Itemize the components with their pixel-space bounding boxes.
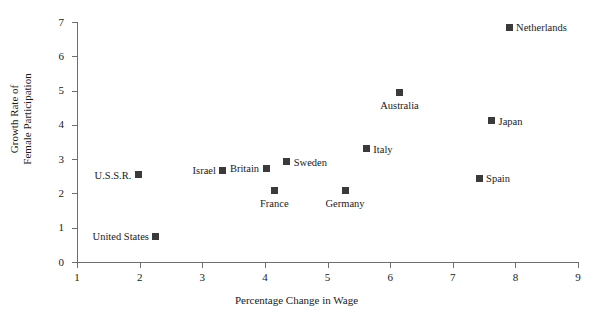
data-point-label: United States [93,231,149,242]
y-tick-label: 2 [42,188,64,199]
x-tick-label: 2 [129,272,151,283]
y-axis-title-line-2: Female Participation [21,34,34,204]
y-axis-title: Growth Rate of Female Participation [8,34,34,204]
x-tick-mark [515,263,516,268]
data-point[interactable] [263,165,270,172]
data-point[interactable] [476,175,483,182]
data-point[interactable] [488,117,495,124]
x-tick-label: 1 [66,272,88,283]
x-tick-mark [202,263,203,268]
x-tick-mark [77,263,78,268]
x-tick-mark [265,263,266,268]
plot-area [77,22,578,262]
x-axis-title: Percentage Change in Wage [0,294,593,306]
x-tick-mark [453,263,454,268]
data-point[interactable] [342,187,349,194]
x-tick-label: 9 [567,272,589,283]
data-point[interactable] [283,158,290,165]
x-tick-label: 7 [442,272,464,283]
y-tick-label: 4 [42,119,64,130]
data-point[interactable] [135,171,142,178]
data-point-label: Israel [193,165,216,176]
data-point[interactable] [363,145,370,152]
y-tick-label: 7 [42,17,64,28]
data-point-label: Spain [486,173,510,184]
data-point-label: Italy [373,143,392,154]
y-tick-label: 3 [42,154,64,165]
x-tick-mark [328,263,329,268]
y-axis-title-line-1: Growth Rate of [8,34,21,204]
x-tick-mark [140,263,141,268]
data-point[interactable] [271,187,278,194]
data-point-label: U.S.S.R. [95,169,132,180]
y-tick-label: 6 [42,51,64,62]
y-tick-label: 0 [42,257,64,268]
data-point-label: France [260,198,289,209]
data-point-label: Sweden [294,156,327,167]
scatter-chart-figure: 01234567 123456789 Percentage Change in … [0,0,593,319]
x-tick-label: 4 [254,272,276,283]
x-tick-label: 5 [317,272,339,283]
data-point[interactable] [506,24,513,31]
data-point-label: Japan [499,115,523,126]
data-point-label: Australia [380,100,419,111]
data-point-label: Netherlands [516,22,567,33]
data-point-label: Britain [230,163,259,174]
data-point[interactable] [152,233,159,240]
x-tick-mark [578,263,579,268]
x-tick-label: 6 [379,272,401,283]
y-tick-label: 1 [42,222,64,233]
x-tick-label: 3 [191,272,213,283]
x-tick-label: 8 [504,272,526,283]
data-point[interactable] [396,89,403,96]
data-point-label: Germany [325,198,364,209]
data-point[interactable] [219,167,226,174]
x-tick-mark [390,263,391,268]
y-tick-label: 5 [42,85,64,96]
